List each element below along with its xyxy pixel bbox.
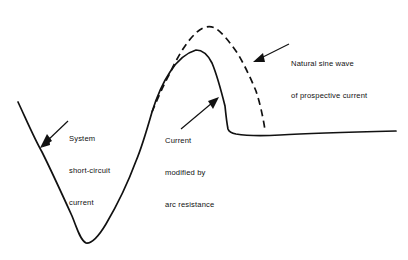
label-current-modified-by-arc-resistance: Current modified by arc resistance	[165, 115, 214, 232]
label-natural-sine-wave: Natural sine wave of prospective current	[291, 38, 367, 123]
system-short-circuit-leader	[40, 121, 68, 148]
arrowhead-icon	[253, 53, 265, 62]
waveform-figure: System short-circuit current Current mod…	[0, 0, 408, 260]
label-line-2: modified by	[165, 168, 214, 179]
natural-sine-wave-leader	[253, 44, 289, 62]
label-line-1: Natural sine wave	[291, 59, 367, 70]
label-system-short-circuit-current: System short-circuit current	[69, 113, 110, 230]
label-line-2: short-circuit	[69, 166, 110, 177]
label-line-3: current	[69, 198, 110, 209]
label-line-1: Current	[165, 136, 214, 147]
label-line-3: arc resistance	[165, 200, 214, 211]
label-line-2: of prospective current	[291, 91, 367, 102]
label-line-1: System	[69, 134, 110, 145]
arrowhead-icon	[208, 97, 219, 109]
